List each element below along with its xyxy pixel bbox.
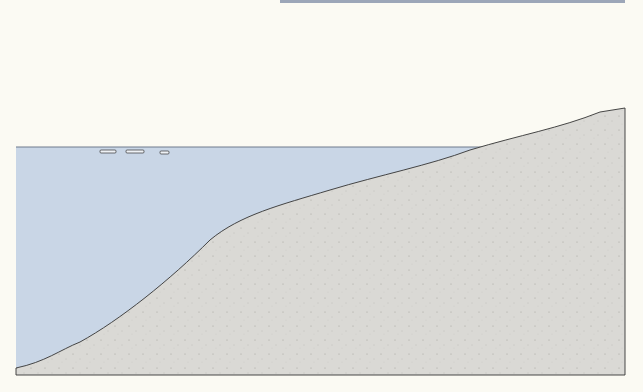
seagrass-detritus-diagram (0, 0, 643, 392)
